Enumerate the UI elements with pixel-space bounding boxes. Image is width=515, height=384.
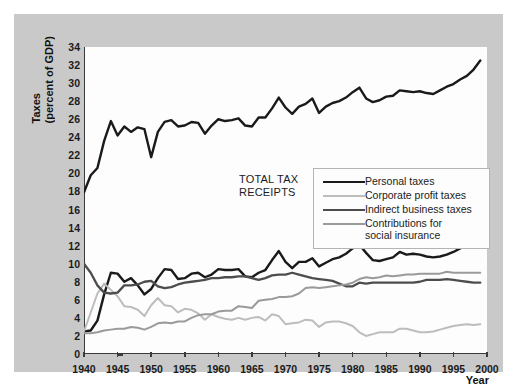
y-axis-tick-label: 16 [54,205,80,215]
y-axis-tick-label: 32 [54,60,80,70]
legend-swatch-contributions-social-insurance [321,218,365,230]
legend-swatch-corporate-profit-taxes [321,190,365,202]
plot-area: TOTAL TAX RECEIPTS Personal taxes Corpor… [84,47,487,354]
y-axis-tick-label: 4 [54,313,80,323]
legend-item: Corporate profit taxes [321,189,482,202]
y-axis-tick-label: 20 [54,168,80,178]
annotation-line-2: RECEIPTS [239,186,298,199]
y-axis-tick-label: 18 [54,186,80,196]
y-axis-tick-label: 24 [54,132,80,142]
total-tax-receipts-annotation: TOTAL TAX RECEIPTS [239,173,298,199]
y-axis-tick-label: 0 [54,349,80,359]
y-axis-tick-label: 10 [54,259,80,269]
figure-panel: Taxes (percent of GDP) 02468101214161820… [14,14,503,372]
x-axis-tick-mark [83,352,85,357]
y-axis-tick-label: 28 [54,96,80,106]
x-axis-tick-mark [386,352,388,357]
legend-label-personal-taxes: Personal taxes [365,175,434,187]
x-axis-tick-mark [486,352,488,357]
x-axis-title: Year [466,374,489,384]
x-axis-tick-mark [419,352,421,357]
y-axis-title-line1: Taxes [30,36,42,123]
series-line-indirect-business-taxes [84,264,480,294]
y-axis-tick-label: 34 [54,42,80,52]
x-axis-tick-mark [318,352,320,357]
y-axis-tick-label: 30 [54,78,80,88]
y-axis-tick-label: 14 [54,223,80,233]
x-axis-tick-mark [453,352,455,357]
chart-legend: Personal taxes Corporate profit taxes In… [313,168,490,249]
x-axis-tick-mark [184,352,186,357]
legend-label-contributions-line1: Contributions for [365,217,442,229]
legend-item: Contributions for social insurance [321,217,482,241]
x-axis-tick-labels: 1940194519501955196019651970197519801985… [84,357,487,377]
y-axis-tick-mark [118,354,123,356]
y-axis-tick-label: 8 [54,277,80,287]
x-axis-tick-mark [150,352,152,357]
annotation-line-1: TOTAL TAX [239,173,298,186]
x-axis-tick-mark [285,352,287,357]
y-axis-tick-label: 26 [54,114,80,124]
y-axis-tick-label: 6 [54,295,80,305]
x-axis-tick-mark [251,352,253,357]
legend-item: Personal taxes [321,175,482,188]
legend-item: Indirect business taxes [321,203,482,216]
legend-swatch-indirect-business-taxes [321,204,365,216]
y-axis-tick-label: 12 [54,241,80,251]
x-axis-tick-mark [352,352,354,357]
legend-label-contributions-line2: social insurance [365,229,440,241]
y-axis-tick-label: 2 [54,331,80,341]
legend-label-indirect-business-taxes: Indirect business taxes [365,203,472,215]
legend-label-corporate-profit-taxes: Corporate profit taxes [365,189,466,201]
x-axis-tick-mark [218,352,220,357]
y-axis-tick-label: 22 [54,150,80,160]
legend-swatch-personal-taxes [321,176,365,188]
y-axis-tick-labels: 0246810121416182022242628303234 [50,47,80,354]
x-axis-tick-mark [117,352,119,357]
series-line-personal-taxes [84,238,480,331]
